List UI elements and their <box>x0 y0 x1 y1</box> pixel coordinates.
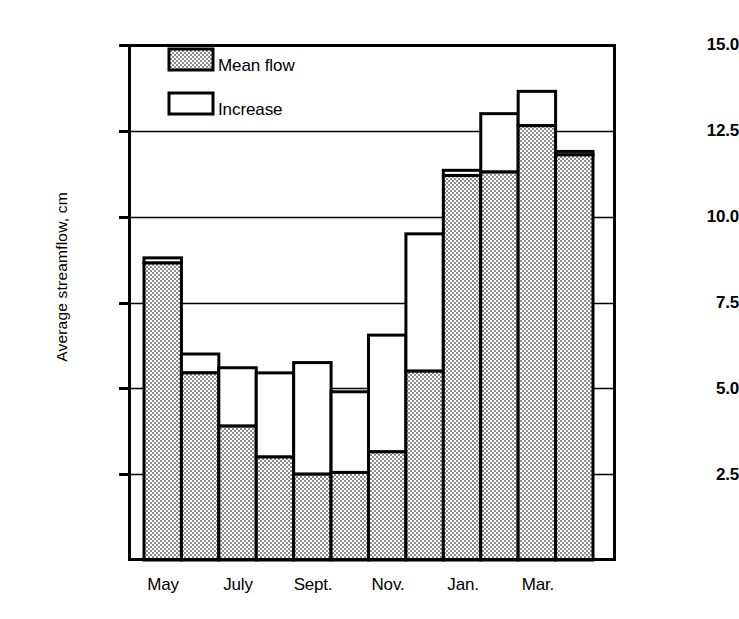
bar-mar <box>518 91 555 560</box>
bar-segment-increase <box>369 335 406 452</box>
bar-apr <box>556 151 593 560</box>
bar-june <box>181 354 218 560</box>
bar-segment-increase <box>331 392 368 473</box>
chart-figure: Average streamflow, cm 15.0 12.5 10.0 7.… <box>0 0 739 619</box>
bar-segment-mean-flow <box>219 426 256 560</box>
bar-nov <box>369 335 406 560</box>
plot-area <box>0 0 739 619</box>
legend-swatch-increase <box>169 93 213 114</box>
bar-segment-increase <box>256 373 293 457</box>
bar-aug <box>256 373 293 560</box>
bar-segment-mean-flow <box>443 175 480 560</box>
bar-segment-mean-flow <box>518 126 555 560</box>
bar-dec <box>406 234 443 560</box>
bar-segment-increase <box>406 234 443 371</box>
bar-segment-increase <box>294 363 331 475</box>
bar-segment-increase <box>518 91 555 125</box>
bar-segment-increase <box>481 114 518 172</box>
bar-segment-mean-flow <box>181 373 218 560</box>
bar-segment-mean-flow <box>369 452 406 560</box>
legend-swatch-mean-flow <box>169 49 213 70</box>
bar-group <box>144 91 593 560</box>
bar-jan <box>443 170 480 560</box>
bar-segment-mean-flow <box>556 155 593 560</box>
bar-sept <box>294 363 331 560</box>
bar-segment-increase <box>181 354 218 373</box>
bar-segment-mean-flow <box>144 263 181 560</box>
bar-segment-mean-flow <box>331 472 368 560</box>
bar-segment-mean-flow <box>406 371 443 560</box>
bar-oct <box>331 392 368 560</box>
bar-july <box>219 368 256 560</box>
bar-feb <box>481 114 518 560</box>
bar-segment-mean-flow <box>256 457 293 560</box>
bar-segment-mean-flow <box>481 172 518 560</box>
bar-may <box>144 258 181 560</box>
bar-segment-mean-flow <box>294 474 331 560</box>
bar-segment-increase <box>219 368 256 426</box>
